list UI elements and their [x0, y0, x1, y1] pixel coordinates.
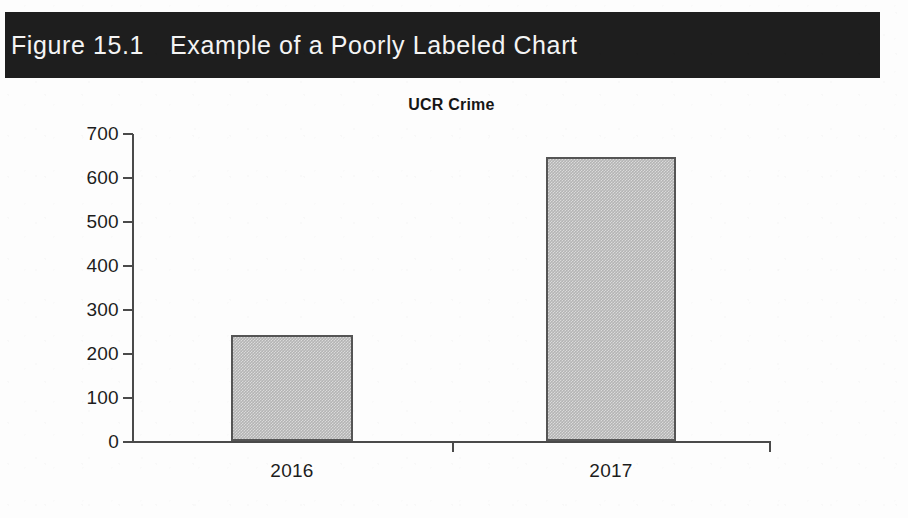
bar-2017 [546, 157, 676, 441]
x-tick-mark-0 [452, 441, 454, 452]
y-tick-label: 700 [86, 123, 119, 145]
figure-caption-text: Figure 15.1 Example of a Poorly Labeled … [5, 31, 578, 60]
plot-area: 7006005004003002001000 20162017 [133, 134, 770, 442]
y-tick-label: 400 [86, 255, 119, 277]
figure-title-label: Example of a Poorly Labeled Chart [170, 31, 578, 60]
y-tick-label: 100 [86, 387, 119, 409]
y-tick-label: 300 [86, 299, 119, 321]
y-tick-mark [123, 221, 133, 223]
y-tick-label: 500 [86, 211, 119, 233]
y-tick-label: 200 [86, 343, 119, 365]
x-tick-mark-1 [769, 441, 771, 452]
y-tick-label: 0 [108, 431, 119, 453]
y-tick-mark [123, 353, 133, 355]
y-tick-mark [123, 441, 133, 443]
figure-number-label: Figure 15.1 [11, 31, 144, 60]
bar-2016 [231, 335, 353, 441]
x-axis-label-2017: 2017 [589, 460, 632, 482]
y-tick-mark [123, 309, 133, 311]
y-tick-mark [123, 133, 133, 135]
y-tick-mark [123, 397, 133, 399]
y-tick-mark [123, 265, 133, 267]
y-tick-label: 600 [86, 167, 119, 189]
figure-caption-banner: Figure 15.1 Example of a Poorly Labeled … [5, 12, 880, 78]
x-axis-label-2016: 2016 [270, 460, 313, 482]
y-tick-mark [123, 177, 133, 179]
y-axis-line [132, 134, 134, 442]
chart-title: UCR Crime [133, 96, 770, 114]
bar-chart: UCR Crime 7006005004003002001000 2016201… [0, 78, 908, 518]
